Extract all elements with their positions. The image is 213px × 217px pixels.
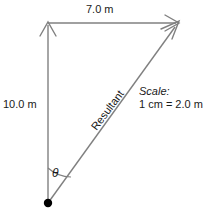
scale-legend-value: 1 cm = 2.0 m <box>139 98 203 111</box>
scale-legend: Scale: 1 cm = 2.0 m <box>139 85 203 111</box>
vector-diagram-figure: 7.0 m 10.0 m Resultant θ Scale: 1 cm = 2… <box>0 0 213 217</box>
vertical-vector-label: 10.0 m <box>3 98 37 110</box>
resultant-vector-arrowhead <box>161 21 179 39</box>
origin-dot <box>44 199 52 207</box>
horizontal-vector-label: 7.0 m <box>86 3 114 15</box>
scale-legend-title: Scale: <box>139 85 203 98</box>
angle-theta-label: θ <box>52 167 59 179</box>
